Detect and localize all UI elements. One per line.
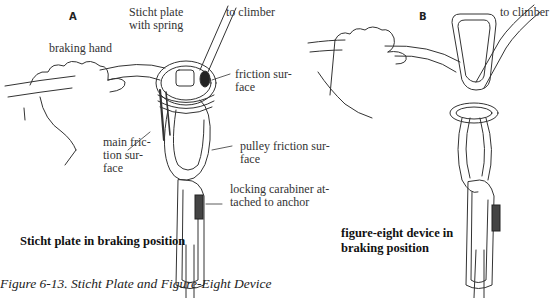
panel-b-caption: figure-eight device in braking position — [341, 226, 453, 256]
label-main-friction-surface: main fric- tion sur- face — [103, 136, 151, 175]
label-to-climber-a: to climber — [226, 6, 275, 19]
figure-6-13: A B Sticht plate with spring to climber … — [0, 0, 557, 298]
label-braking-hand: braking hand — [49, 42, 112, 55]
label-pulley-friction-surface: pulley friction sur- face — [240, 140, 330, 166]
label-to-climber-b: to climber — [500, 6, 549, 19]
label-sticht-plate: Sticht plate with spring — [129, 6, 183, 32]
panel-a-caption: Sticht plate in braking position — [20, 234, 185, 249]
label-friction-surface: friction sur- face — [235, 68, 292, 94]
figure-caption: Figure 6-13. Sticht Plate and Figure-Eig… — [0, 276, 272, 292]
panel-a-letter: A — [69, 11, 77, 22]
panel-b-letter: B — [419, 11, 427, 22]
label-locking-carabiner: locking carabiner at- tached to anchor — [230, 183, 329, 209]
